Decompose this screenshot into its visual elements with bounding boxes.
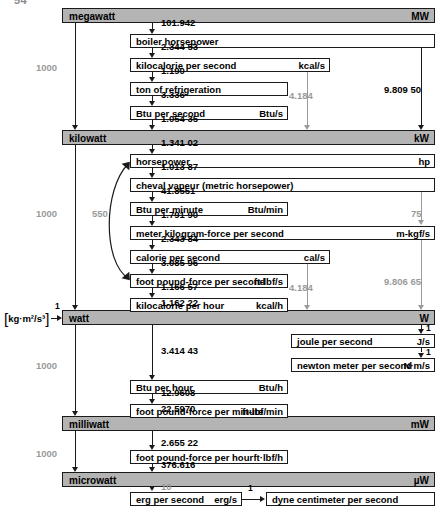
connector-erg-dyne: [242, 499, 261, 500]
unit-box-foot-pound-force-per-hour-symbol: ft·lbf/h: [253, 452, 283, 463]
factor-1190: 1.190: [161, 65, 185, 76]
power-unit-conversion-diagram: 54: [0, 0, 446, 513]
factor-308596: 3.085 96: [161, 257, 198, 268]
factor-980665: 9.806 65: [384, 276, 421, 287]
unit-bar-megawatt[interactable]: megawatt MW: [62, 8, 435, 23]
factor-75: 75: [411, 208, 422, 219]
unit-bar-watt[interactable]: watt W: [62, 310, 435, 325]
factor-1-baseunit-watt: 1: [55, 301, 60, 311]
unit-box-btu-per-hour-symbol: Btu/h: [259, 382, 283, 393]
unit-box-calorie-per-second-symbol: cal/s: [304, 252, 325, 263]
unit-bar-kilowatt-symbol: kW: [414, 132, 429, 143]
factor-1000-megawatt-kilowatt: 1000: [36, 62, 57, 73]
unit-box-btu-per-minute-symbol: Btu/min: [248, 204, 283, 215]
unit-bar-milliwatt[interactable]: milliwatt mW: [62, 416, 435, 431]
unit-box-kilocalorie-per-hour[interactable]: kilocalorie per hour kcal/h: [130, 298, 288, 312]
arrow-chevalvapeur-mkgf: [418, 220, 424, 225]
factor-4184-cals: 4.184: [289, 282, 313, 293]
unit-box-foot-pound-force-per-minute[interactable]: foot pound-force per minute ft-lbf/min: [130, 404, 288, 418]
unit-box-joule-per-second-symbol: J/s: [417, 336, 430, 347]
unit-bar-megawatt-symbol: MW: [411, 10, 429, 21]
unit-box-joule-per-second[interactable]: joule per second J/s: [291, 334, 435, 348]
factor-129608: 12.9608: [161, 387, 195, 398]
unit-box-erg-per-second-symbol: erg/s: [214, 494, 237, 505]
unit-box-btu-per-second-symbol: Btu/s: [259, 108, 283, 119]
unit-box-btu-per-second[interactable]: Btu per second Btu/s: [130, 106, 288, 120]
factor-101387: 1.013 87: [161, 161, 198, 172]
unit-box-newton-meter-per-second[interactable]: newton meter per second N·m/s: [291, 358, 435, 372]
unit-box-meter-kilogram-force-per-second-symbol: m-kgf/s: [396, 228, 430, 239]
unit-bar-megawatt-name: megawatt: [69, 10, 115, 21]
unit-bar-milliwatt-name: milliwatt: [69, 418, 109, 429]
factor-4184-kcals: 4.184: [289, 90, 313, 101]
base-unit-bracket: [kg·m²/s³]: [4, 310, 49, 327]
unit-box-btu-per-minute[interactable]: Btu per minute Btu/min: [130, 202, 288, 216]
unit-bar-watt-symbol: W: [420, 312, 429, 323]
unit-box-horsepower-symbol: hp: [418, 156, 430, 167]
unit-box-foot-pound-force-per-second-symbol: ft-lbf/s: [254, 276, 283, 287]
unit-box-cheval-vapeur-name: cheval vapeur (metric horsepower): [136, 180, 293, 191]
unit-bar-milliwatt-symbol: mW: [411, 418, 429, 429]
factor-376616: 376.616: [161, 459, 195, 470]
factor-116222: 1.162 22: [161, 297, 198, 308]
factor-980950: 9.809 50: [384, 84, 421, 95]
factor-234384: 2.343 84: [161, 233, 198, 244]
connector-joule-newtonmeter: [421, 348, 422, 352]
factor-1000-milliwatt-microwatt: 1000: [36, 448, 57, 459]
unit-box-erg-per-second[interactable]: erg per second erg/s: [130, 492, 242, 506]
factor-225970: 22.5970: [161, 403, 195, 414]
unit-box-foot-pound-force-per-second[interactable]: foot pound-force per second ft-lbf/s: [130, 274, 288, 288]
unit-box-kilocalorie-per-second[interactable]: kilocalorie per second kcal/s: [130, 58, 330, 72]
factor-3336: 3.336: [161, 89, 185, 100]
factor-134102: 1.341 02: [161, 137, 198, 148]
unit-bar-kilowatt-name: kilowatt: [69, 132, 106, 143]
page-number: 54: [14, 0, 27, 6]
factor-116657: 1.166 57: [161, 281, 198, 292]
factor-341443: 3.414 43: [161, 345, 198, 356]
unit-box-erg-per-second-name: erg per second: [136, 494, 204, 505]
unit-box-newton-meter-per-second-name: newton meter per second: [297, 360, 412, 371]
factor-550: 550: [92, 208, 108, 219]
connector-milliwatt-microwatt: [75, 431, 76, 467]
base-unit-expression: kg·m²/s³: [8, 313, 45, 324]
unit-box-calorie-per-second[interactable]: calorie per second cal/s: [130, 250, 330, 264]
connector-megawatt-kilowatt: [75, 23, 76, 125]
unit-box-kilocalorie-per-second-symbol: kcal/s: [299, 60, 325, 71]
factor-234453: 2.344 53: [161, 41, 198, 52]
factor-418551: 41.8551: [161, 185, 195, 196]
unit-bar-microwatt-symbol: µW: [414, 474, 429, 485]
unit-box-kilocalorie-per-second-name: kilocalorie per second: [136, 60, 236, 71]
connector-mkgf-watt: [421, 240, 422, 305]
factor-101942: 101.942: [161, 17, 195, 28]
unit-box-foot-pound-force-per-hour[interactable]: foot pound-force per hour ft·lbf/h: [130, 450, 288, 464]
arrow-erg-dyne: [260, 496, 265, 502]
factor-10: 10: [161, 481, 172, 492]
factor-1000-watt-milliwatt: 1000: [36, 360, 57, 371]
unit-box-joule-per-second-name: joule per second: [297, 336, 373, 347]
factor-1000-kilowatt-watt: 1000: [36, 208, 57, 219]
unit-box-foot-pound-force-per-second-name: foot pound-force per second: [136, 276, 265, 287]
factor-1-joule-newton: 1: [426, 347, 431, 357]
connector-boilerhp-kilowatt: [421, 48, 422, 125]
unit-bar-microwatt-name: microwatt: [69, 474, 116, 485]
factor-265522: 2.655 22: [161, 437, 198, 448]
connector-watt-milliwatt: [75, 325, 76, 411]
unit-box-btu-per-hour[interactable]: Btu per hour Btu/h: [130, 380, 288, 394]
unit-box-dyne-centimeter-per-second-name: dyne centimeter per second: [272, 494, 398, 505]
unit-box-ton-of-refrigeration[interactable]: ton of refrigeration: [130, 82, 288, 96]
unit-box-meter-kilogram-force-per-second-name: meter kilogram-force per second: [136, 228, 284, 239]
unit-box-newton-meter-per-second-symbol: N·m/s: [404, 360, 430, 371]
unit-box-kilocalorie-per-hour-symbol: kcal/h: [256, 300, 283, 311]
factor-179190: 1.791 90: [161, 209, 198, 220]
factor-105435: 1.054 35: [161, 113, 198, 124]
connector-milliwatt-ftlbfh: [152, 431, 153, 445]
unit-box-dyne-centimeter-per-second[interactable]: dyne centimeter per second: [266, 492, 435, 506]
unit-box-foot-pound-force-per-minute-symbol: ft-lbf/min: [242, 406, 283, 417]
connector-kilowatt-watt: [75, 145, 76, 305]
connector-watt-btuh: [152, 325, 153, 375]
curve-ftlbfs-to-horsepower: [95, 150, 165, 290]
factor-1-watt-joule: 1: [426, 323, 431, 333]
unit-bar-watt-name: watt: [69, 312, 89, 323]
unit-bar-kilowatt[interactable]: kilowatt kW: [62, 130, 435, 145]
factor-1-erg-dyne: 1: [248, 483, 253, 493]
